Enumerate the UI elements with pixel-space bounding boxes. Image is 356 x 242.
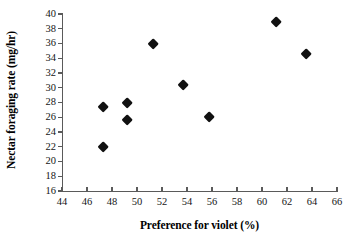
x-tick-label: 46 bbox=[75, 197, 99, 208]
y-tick-label: 22 bbox=[34, 142, 56, 153]
data-point bbox=[204, 111, 216, 123]
y-tick-label: 30 bbox=[34, 83, 56, 94]
y-tick-label: 18 bbox=[34, 171, 56, 182]
y-tick-label: 28 bbox=[34, 97, 56, 108]
y-tick-label: 38 bbox=[34, 24, 56, 35]
y-tick-label: 20 bbox=[34, 156, 56, 167]
x-tick-label: 44 bbox=[50, 197, 74, 208]
y-tick-label: 24 bbox=[34, 127, 56, 138]
y-tick-label: 26 bbox=[34, 112, 56, 123]
data-point bbox=[121, 114, 133, 126]
y-tick-label: 40 bbox=[34, 9, 56, 20]
y-tick-label: 36 bbox=[34, 38, 56, 49]
data-point bbox=[147, 38, 159, 50]
x-tick-label: 50 bbox=[125, 197, 149, 208]
x-tick-label: 66 bbox=[325, 197, 349, 208]
y-tick-label: 34 bbox=[34, 53, 56, 64]
plot-area bbox=[62, 14, 337, 191]
x-tick-label: 56 bbox=[200, 197, 224, 208]
y-axis-title: Nectar foraging rate (mg/hr) bbox=[2, 0, 20, 200]
x-tick-label: 54 bbox=[175, 197, 199, 208]
data-point bbox=[97, 102, 109, 114]
data-point bbox=[300, 48, 312, 60]
y-tick-label: 16 bbox=[34, 186, 56, 197]
x-tick-label: 52 bbox=[150, 197, 174, 208]
y-tick-label: 32 bbox=[34, 68, 56, 79]
x-tick-label: 60 bbox=[250, 197, 274, 208]
x-axis-title: Preference for violet (%) bbox=[62, 219, 337, 231]
data-point bbox=[270, 16, 282, 28]
data-point bbox=[121, 97, 133, 109]
x-tick-label: 48 bbox=[100, 197, 124, 208]
x-tick-label: 62 bbox=[275, 197, 299, 208]
data-point bbox=[177, 80, 189, 92]
x-tick-label: 58 bbox=[225, 197, 249, 208]
scatter-chart: Nectar foraging rate (mg/hr) 16182022242… bbox=[0, 0, 356, 242]
x-tick-label: 64 bbox=[300, 197, 324, 208]
data-point bbox=[97, 141, 109, 153]
x-axis-line bbox=[62, 191, 338, 192]
